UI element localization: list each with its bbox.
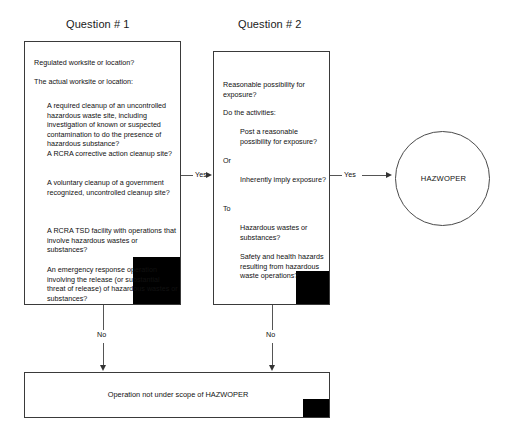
folded-corner-icon	[303, 399, 329, 417]
q2-criterion-4: Safety and health hazards resulting from…	[240, 252, 330, 281]
q1-criterion-5: An emergency response operation involvin…	[47, 265, 180, 303]
terminal-box-out-of-scope[interactable]: Operation not under scope of HAZWOPER	[24, 372, 330, 418]
connector-no-2-segment-top	[272, 305, 273, 331]
q2-criterion-1: Post a reasonable possibility for exposu…	[240, 127, 330, 146]
edge-label-yes-2: Yes	[342, 170, 358, 179]
q2-conjunction-to: To	[223, 204, 263, 214]
arrowhead-right-icon	[206, 172, 212, 178]
q1-lead-text-1: Regulated worksite or location?	[34, 58, 180, 68]
decision-box-question-1[interactable]: Regulated worksite or location? The actu…	[24, 41, 181, 305]
q1-criterion-4: A RCRA TSD facility with operations that…	[47, 226, 180, 255]
arrowhead-down-icon	[269, 365, 275, 371]
q1-criterion-2: A RCRA corrective action cleanup site?	[47, 149, 180, 159]
q2-criterion-3: Hazardous wastes or substances?	[240, 223, 330, 242]
q2-lead-text-1: Reasonable possibility for exposure?	[223, 80, 327, 99]
q2-lead-text-2: Do the activities:	[223, 108, 327, 118]
connector-yes-2-segment-right	[362, 175, 386, 176]
terminal-box-label: Operation not under scope of HAZWOPER	[25, 390, 330, 399]
arrowhead-down-icon	[100, 365, 106, 371]
arrowhead-right-icon	[386, 172, 392, 178]
heading-question-1: Question # 1	[66, 18, 130, 31]
edge-label-no-2: No	[264, 330, 277, 339]
flowchart-canvas: Question # 1 Question # 2 Regulated work…	[0, 0, 508, 439]
heading-question-2: Question # 2	[238, 18, 302, 31]
connector-no-2-segment-bottom	[272, 343, 273, 366]
edge-label-no-1: No	[95, 330, 108, 339]
q2-criterion-2: Inherently imply exposure?	[240, 175, 330, 185]
q1-criterion-3: A voluntary cleanup of a government reco…	[47, 178, 180, 197]
terminal-node-label: HAZWOPER	[396, 174, 491, 183]
decision-box-question-2[interactable]: Reasonable possibility for exposure? Do …	[213, 51, 330, 305]
terminal-node-hazwoper[interactable]: HAZWOPER	[395, 131, 490, 226]
q1-criterion-1: A required cleanup of an uncontrolled ha…	[47, 101, 180, 149]
q1-lead-text-2: The actual worksite or location:	[34, 77, 180, 87]
q2-conjunction-or: Or	[223, 156, 263, 166]
connector-no-1-segment-top	[103, 305, 104, 331]
connector-no-1-segment-bottom	[103, 343, 104, 366]
